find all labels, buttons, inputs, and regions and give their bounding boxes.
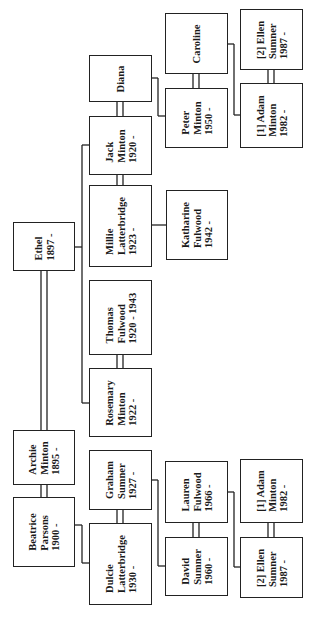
person-box-jack-minton: Jack Minton 1920 - <box>89 116 152 175</box>
person-name: David <box>179 549 191 585</box>
person-name: Beatrice <box>27 513 39 550</box>
person-box-graham-sumner: Graham Sumner 1927 - <box>89 450 152 510</box>
person-name: Lauren <box>179 472 191 511</box>
person-box-thomas-fulwood: Thomas Fulwood 1920 - 1943 <box>89 280 152 355</box>
person-box-diana: Diana <box>89 55 152 102</box>
person-dates: 1920 - 1943 <box>126 292 138 343</box>
person-box-ethel: Ethel 1897 - <box>13 222 75 271</box>
person-name: [1] Adam <box>254 95 266 137</box>
person-dates: 1987 - <box>277 548 289 586</box>
person-dates: 1987 - <box>277 20 289 58</box>
person-dates: 1966 - <box>202 472 214 511</box>
person-dates: 1950 - <box>202 101 214 134</box>
person-box-millie-latterbridge: Millie Latterbridge 1923 - <box>89 185 152 267</box>
family-tree-diagram: Diana Jack Minton 1920 - Millie Latterbr… <box>0 0 312 630</box>
person-box-adam-minton-top: [1] Adam Minton 1982 - <box>240 83 303 148</box>
person-name: [2] Ellen <box>254 20 266 58</box>
person-box-lauren-fulwood: Lauren Fulwood 1966 - <box>165 461 228 523</box>
person-surname: Sumner <box>115 461 127 499</box>
person-box-ellen-sumner-top: [2] Ellen Sumner 1987 - <box>240 9 303 70</box>
person-dates: 1982 - <box>277 470 289 512</box>
person-name: Diana <box>115 65 127 92</box>
person-name: [1] Adam <box>254 470 266 512</box>
person-box-peter-minton: Peter Minton 1950 - <box>165 88 228 148</box>
person-surname: Sumner <box>266 548 278 586</box>
person-dates: 1895 - <box>50 441 62 474</box>
person-box-archie-minton: Archie Minton 1895 - <box>13 430 75 485</box>
person-box-dulcie-latterbridge: Dulcie Latterbridge 1930 - <box>89 523 152 605</box>
person-box-adam-minton-bottom: [1] Adam Minton 1982 - <box>240 459 303 523</box>
person-name: Rosemary <box>103 380 115 426</box>
person-box-beatrice-parsons: Beatrice Parsons 1900 - <box>13 497 75 567</box>
person-name: Thomas <box>103 292 115 343</box>
person-box-caroline: Caroline <box>165 13 228 74</box>
person-surname: Minton <box>266 95 278 137</box>
person-name: Millie <box>103 197 115 255</box>
person-surname: Minton <box>38 441 50 474</box>
person-dates: 1922 - <box>126 380 138 426</box>
person-dates: 1930 - <box>126 535 138 593</box>
person-dates: 1900 - <box>50 513 62 550</box>
person-name: [2] Ellen <box>254 548 266 586</box>
person-name: Graham <box>103 461 115 499</box>
person-dates: 1942 - <box>203 202 215 248</box>
person-surname: Latterbridge <box>115 535 127 593</box>
person-surname: Sumner <box>266 20 278 58</box>
person-name: Archie <box>27 441 39 474</box>
person-surname: Parsons <box>38 513 50 550</box>
person-surname: Fulwood <box>115 292 127 343</box>
person-surname: Latterbridge <box>115 197 127 255</box>
person-name: Ethel <box>33 233 45 260</box>
person-dates: 1920 - <box>126 129 138 162</box>
person-name: Katharine <box>180 202 192 248</box>
person-surname: Minton <box>191 101 203 134</box>
person-box-david-sumner: David Sumner 1960 - <box>165 537 228 596</box>
person-name: Jack <box>103 129 115 162</box>
person-box-ellen-sumner-bottom: [2] Ellen Sumner 1987 - <box>240 537 303 598</box>
person-name: Caroline <box>191 24 203 63</box>
person-box-rosemary-minton: Rosemary Minton 1922 - <box>89 368 152 437</box>
person-box-katharine-fulwood: Katharine Fulwood 1942 - <box>166 190 228 260</box>
person-surname: Sumner <box>191 549 203 585</box>
person-surname: Fulwood <box>191 202 203 248</box>
person-dates: 1960 - <box>202 549 214 585</box>
person-dates: 1923 - <box>126 197 138 255</box>
person-name: Dulcie <box>103 535 115 593</box>
person-dates: 1927 - <box>126 461 138 499</box>
person-surname: Fulwood <box>191 472 203 511</box>
person-surname: Minton <box>115 380 127 426</box>
person-surname: Minton <box>115 129 127 162</box>
person-surname: Minton <box>266 470 278 512</box>
person-name: Peter <box>179 101 191 134</box>
person-dates: 1982 - <box>277 95 289 137</box>
person-dates: 1897 - <box>44 233 56 260</box>
